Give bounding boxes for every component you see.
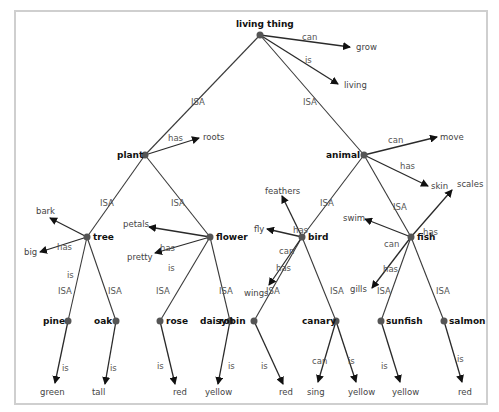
rel-is-green: is <box>62 364 69 373</box>
node-salmon: salmon <box>449 317 485 326</box>
rel-has-scales: has <box>423 228 438 237</box>
prop-fly: fly <box>254 225 264 234</box>
rel-is-canary-yellow: is <box>348 357 355 366</box>
rel-has-bark: has <box>57 243 72 252</box>
prop-roots: roots <box>203 133 224 142</box>
prop-big: big <box>24 248 37 257</box>
rel-has-feathers: has <box>293 226 308 235</box>
node-oak: oak <box>94 317 112 326</box>
prop-tall: tall <box>92 388 105 397</box>
rel-is-pretty: is <box>168 264 175 273</box>
rel-has-skin: has <box>400 162 415 171</box>
rel-isa-animal: ISA <box>303 98 317 107</box>
prop-swim: swim <box>343 214 365 223</box>
node-flower: flower <box>216 233 248 242</box>
rel-isa-sunfish: ISA <box>377 287 391 296</box>
node-robin: robin <box>219 317 246 326</box>
rel-can-fly: can <box>279 247 294 256</box>
node-dots <box>65 32 448 325</box>
prop-move: move <box>440 133 464 142</box>
rel-is-sunfish-yellow: is <box>381 362 388 371</box>
rel-can-sing: can <box>312 357 327 366</box>
node-animal: animal <box>326 151 360 160</box>
node-pine: pine <box>43 317 65 326</box>
rel-is-salmon-red: is <box>457 355 464 364</box>
rel-isa-pine: ISA <box>58 287 72 296</box>
node-plant: plant <box>117 151 143 160</box>
rel-isa-robin: ISA <box>266 287 280 296</box>
rel-is-daisy-yellow: is <box>228 362 235 371</box>
rel-isa-rose: ISA <box>156 287 170 296</box>
rel-isa-plant: ISA <box>191 98 205 107</box>
prop-wings: wings <box>244 289 269 298</box>
prop-canary-yellow: yellow <box>348 388 375 397</box>
node-bird: bird <box>308 233 328 242</box>
rel-isa-tree: ISA <box>100 199 114 208</box>
rel-can-grow: can <box>302 33 317 42</box>
prop-robin-red: red <box>279 388 293 397</box>
prop-living: living <box>344 81 367 90</box>
prop-bark: bark <box>36 207 55 216</box>
node-living-thing: living thing <box>236 20 294 29</box>
rel-is-tall: is <box>110 364 117 373</box>
rel-can-move: can <box>388 136 403 145</box>
node-rose: rose <box>166 317 188 326</box>
isa-edges <box>68 35 444 321</box>
prop-pretty: pretty <box>127 253 153 262</box>
prop-salmon-red: red <box>458 388 472 397</box>
rel-is-rose-red: is <box>157 362 164 371</box>
node-canary: canary <box>302 317 336 326</box>
semantic-network-graph <box>0 0 499 412</box>
rel-isa-flower: ISA <box>171 199 185 208</box>
rel-has-petals: has <box>160 244 175 253</box>
rel-has-wings: has <box>276 264 291 273</box>
prop-daisy-yellow: yellow <box>205 388 232 397</box>
rel-is-living: is <box>305 56 312 65</box>
rel-isa-oak: ISA <box>108 287 122 296</box>
node-tree: tree <box>93 233 114 242</box>
rel-has-gills: has <box>383 265 398 274</box>
rel-is-robin-red: is <box>261 362 268 371</box>
prop-rose-red: red <box>173 388 187 397</box>
prop-petals: petals <box>123 220 149 229</box>
rel-can-swim: can <box>384 240 399 249</box>
rel-isa-bird: ISA <box>320 199 334 208</box>
prop-scales: scales <box>457 180 483 189</box>
rel-has-roots: has <box>168 134 183 143</box>
rel-isa-canary: ISA <box>330 287 344 296</box>
prop-gills: gills <box>350 285 367 294</box>
rel-isa-daisy: ISA <box>219 287 233 296</box>
node-sunfish: sunfish <box>386 317 423 326</box>
prop-sing: sing <box>307 388 325 397</box>
prop-skin: skin <box>431 182 448 191</box>
prop-feathers: feathers <box>265 187 300 196</box>
rel-isa-fish: ISA <box>393 203 407 212</box>
prop-green: green <box>40 388 65 397</box>
rel-isa-salmon: ISA <box>436 287 450 296</box>
prop-sunfish-yellow: yellow <box>392 388 419 397</box>
prop-grow: grow <box>356 43 377 52</box>
rel-is-big: is <box>67 271 74 280</box>
